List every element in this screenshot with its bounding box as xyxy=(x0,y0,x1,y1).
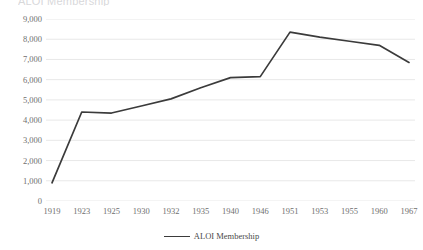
plot-area xyxy=(46,19,415,201)
x-axis-tick-label: 1967 xyxy=(401,206,418,216)
x-axis-tick-label: 1935 xyxy=(192,206,209,216)
y-axis-tick-label: 5,000 xyxy=(0,96,42,105)
y-axis-tick-label: 0 xyxy=(0,197,42,206)
chart-title-cutoff: ALOI Membership xyxy=(0,0,423,6)
x-axis-tick-label: 1925 xyxy=(103,206,120,216)
y-axis-tick-label: 6,000 xyxy=(0,75,42,84)
y-axis-tick-label: 8,000 xyxy=(0,35,42,44)
x-axis-tick-label: 1960 xyxy=(371,206,388,216)
y-axis-tick-label: 3,000 xyxy=(0,136,42,145)
x-axis-tick-label: 1940 xyxy=(222,206,239,216)
y-axis-tick-label: 7,000 xyxy=(0,55,42,64)
x-axis-tick-label: 1946 xyxy=(252,206,269,216)
legend-line-swatch-icon xyxy=(164,236,190,237)
y-axis: 01,0002,0003,0004,0005,0006,0007,0008,00… xyxy=(0,19,42,201)
y-axis-tick-label: 4,000 xyxy=(0,116,42,125)
chart-container: ALOI Membership 01,0002,0003,0004,0005,0… xyxy=(0,0,423,250)
chart-plot-svg xyxy=(46,19,415,201)
x-axis-tick-label: 1919 xyxy=(44,206,61,216)
chart-legend: ALOI Membership xyxy=(0,228,423,244)
x-axis-tick-label: 1923 xyxy=(73,206,90,216)
x-axis-tick-label: 1930 xyxy=(133,206,150,216)
x-axis-tick-label: 1932 xyxy=(163,206,180,216)
y-axis-tick-label: 2,000 xyxy=(0,156,42,165)
legend-item-label: ALOI Membership xyxy=(194,231,259,241)
x-axis-tick-label: 1951 xyxy=(282,206,299,216)
x-axis-tick-label: 1953 xyxy=(311,206,328,216)
y-axis-tick-label: 1,000 xyxy=(0,177,42,186)
gridlines xyxy=(46,19,415,201)
y-axis-tick-label: 9,000 xyxy=(0,15,42,24)
x-axis: 1919192319251930193219351940194619511953… xyxy=(46,206,415,220)
x-axis-tick-label: 1955 xyxy=(341,206,358,216)
